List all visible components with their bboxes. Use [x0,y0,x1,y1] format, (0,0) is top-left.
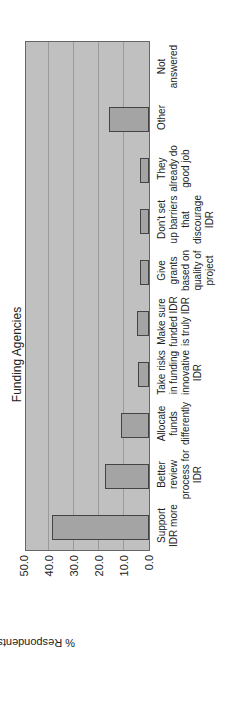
x-tick-label: Support IDR more [156,500,180,551]
y-axis-label: % Respondents [0,637,75,649]
y-tick-label: 40.0 [43,555,55,595]
bar [140,158,149,182]
bar [109,107,149,131]
x-tick-label: Take risks in funding innovative IDR [156,347,204,398]
x-tick-label: Not answered [156,41,180,92]
bar [105,464,149,488]
gridline [98,42,99,550]
x-tick-label: Allocate funds differently [156,398,192,449]
bar [121,413,149,437]
bar [140,260,149,284]
chart-title: Funding Agencies [10,0,24,709]
bar [140,209,149,233]
bar [137,311,150,335]
x-tick-label: They already do good job [156,143,192,194]
gridline [48,42,49,550]
x-tick-label: Give grants based on quality of project [156,245,216,296]
y-tick-label: 50.0 [18,555,30,595]
y-tick-label: 30.0 [68,555,80,595]
chart-frame: Funding Agencies % Respondents 0.010.020… [0,0,230,709]
y-tick-label: 20.0 [93,555,105,595]
y-tick-label: 10.0 [118,555,130,595]
x-tick-label: Make sure funded IDR is truly IDR [156,296,192,347]
y-tick-label: 0.0 [143,555,155,595]
bar [52,515,150,539]
x-tick-label: Better review process for IDR [156,449,204,500]
gridline [73,42,74,550]
bar [138,362,150,386]
plot-area [25,41,150,551]
x-tick-label: Other [156,92,168,143]
x-tick-label: Don't set up barriers that discourage ID… [156,194,216,245]
